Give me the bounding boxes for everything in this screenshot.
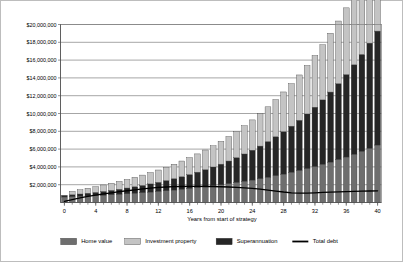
bar-segment-investment-property <box>171 164 177 178</box>
legend-item-superannuation: Superannuation <box>216 238 277 245</box>
bar-segment-home-value <box>281 174 287 202</box>
bar-segment-home-value <box>140 193 146 203</box>
bar-column <box>195 154 201 203</box>
bar-segment-superannuation <box>281 132 287 174</box>
x-axis-title: Years from start of strategy <box>187 216 256 222</box>
bar-segment-superannuation <box>343 75 349 157</box>
bar-segment-home-value <box>171 190 177 202</box>
bar-segment-investment-property <box>155 170 161 182</box>
bar-segment-investment-property <box>93 187 99 193</box>
bar-segment-superannuation <box>375 31 381 145</box>
bar-column <box>304 66 310 203</box>
y-tick-label: $18,000,000 <box>27 39 57 45</box>
bar-column <box>155 170 161 202</box>
bar-segment-home-value <box>242 181 248 202</box>
bar-segment-home-value <box>202 187 208 203</box>
bar-segment-home-value <box>273 176 279 203</box>
bar-segment-superannuation <box>249 150 255 180</box>
bar-segment-home-value <box>351 154 357 202</box>
bar-segment-investment-property <box>218 141 224 164</box>
bar-segment-investment-property <box>195 154 201 172</box>
bar-segment-investment-property <box>242 126 248 154</box>
legend-label-investment-property: Investment property <box>145 238 196 244</box>
x-tick-label: 4 <box>94 208 97 214</box>
bar-segment-investment-property <box>85 188 91 193</box>
bar-column <box>202 150 208 203</box>
bar-segment-investment-property <box>351 0 357 65</box>
legend-label-home-value: Home value <box>81 238 112 244</box>
bar-segment-investment-property <box>336 21 342 84</box>
bar-segment-investment-property <box>320 45 326 100</box>
bar-segment-home-value <box>163 191 169 203</box>
y-tick-label: $8,000,000 <box>30 128 57 134</box>
x-tick-label: 40 <box>374 208 380 214</box>
legend-item-investment-property: Investment property <box>125 238 197 245</box>
bar-segment-investment-property <box>116 181 122 189</box>
bar-column <box>234 131 240 202</box>
bar-segment-investment-property <box>124 179 130 188</box>
bar-column <box>289 84 295 203</box>
bar-segment-investment-property <box>343 8 349 75</box>
bar-segment-superannuation <box>304 114 310 169</box>
bar-segment-home-value <box>343 157 349 202</box>
bar-segment-superannuation <box>242 154 248 181</box>
bar-segment-superannuation <box>359 54 365 151</box>
bar-segment-home-value <box>312 167 318 203</box>
bar-segment-investment-property <box>359 0 365 54</box>
bar-segment-home-value <box>195 188 201 203</box>
legend-item-total-debt: Total debt <box>292 238 338 244</box>
chart-svg: $20,000,000$18,000,000$16,000,000$14,000… <box>0 0 404 263</box>
bar-segment-home-value <box>148 192 154 202</box>
bar-segment-superannuation <box>218 164 224 185</box>
bar-segment-superannuation <box>289 126 295 172</box>
x-axis-ticks-group: 0481216202428323640 <box>63 203 381 214</box>
bar-segment-investment-property <box>77 190 83 194</box>
bar-segment-superannuation <box>171 179 177 190</box>
bar-column <box>312 56 318 203</box>
bar-segment-investment-property <box>148 173 154 184</box>
bar-segment-home-value <box>320 164 326 202</box>
legend-group: Home valueInvestment propertySuperannuat… <box>61 238 339 245</box>
bar-segment-investment-property <box>101 185 107 191</box>
bar-segment-investment-property <box>273 100 279 137</box>
bar-segment-investment-property <box>304 66 310 114</box>
bar-column <box>85 188 91 202</box>
y-tick-label: $6,000,000 <box>30 146 57 152</box>
x-tick-label: 8 <box>125 208 128 214</box>
bar-column <box>179 161 185 202</box>
y-tick-label: $14,000,000 <box>27 75 57 81</box>
x-tick-label: 12 <box>155 208 161 214</box>
bar-column <box>336 21 342 202</box>
bar-segment-superannuation <box>367 43 373 148</box>
y-tick-label: $10,000,000 <box>27 111 57 117</box>
x-tick-label: 28 <box>281 208 287 214</box>
bar-segment-superannuation <box>273 137 279 176</box>
bar-column <box>375 0 381 203</box>
bar-segment-investment-property <box>179 161 185 177</box>
bar-column <box>320 45 326 203</box>
y-tick-label: $4,000,000 <box>30 164 57 170</box>
x-tick-label: 24 <box>249 208 255 214</box>
bar-column <box>226 137 232 203</box>
bar-column <box>77 190 83 203</box>
legend-label-superannuation: Superannuation <box>237 238 278 244</box>
y-tick-label: $16,000,000 <box>27 57 57 63</box>
y-axis-ticks-group: $20,000,000$18,000,000$16,000,000$14,000… <box>27 22 61 188</box>
bar-segment-home-value <box>116 194 122 202</box>
bar-segment-home-value <box>210 186 216 203</box>
bar-segment-home-value <box>93 196 99 203</box>
bar-segment-investment-property <box>375 0 381 31</box>
bar-segment-superannuation <box>69 195 75 197</box>
bar-segment-home-value <box>257 179 263 203</box>
bar-segment-investment-property <box>140 175 146 185</box>
legend-swatch-superannuation <box>216 238 232 245</box>
bar-segment-superannuation <box>210 167 216 186</box>
bar-segment-superannuation <box>77 194 83 196</box>
bar-segment-home-value <box>234 183 240 203</box>
bar-segment-investment-property <box>289 84 295 126</box>
x-tick-label: 20 <box>218 208 224 214</box>
bar-segment-home-value <box>108 195 114 203</box>
legend-label-total-debt: Total debt <box>313 238 339 244</box>
bar-segment-home-value <box>367 148 373 202</box>
x-tick-label: 32 <box>312 208 318 214</box>
